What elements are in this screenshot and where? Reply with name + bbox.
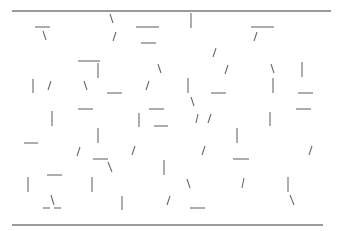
- line-segment: [158, 64, 161, 73]
- line-segment: [113, 32, 116, 41]
- line-segment: [290, 195, 294, 205]
- line-segment: [271, 64, 274, 73]
- line-segment: [146, 81, 149, 90]
- line-segment: [108, 162, 112, 172]
- line-segment: [132, 146, 135, 155]
- line-segment: [208, 114, 211, 123]
- line-segment: [77, 147, 80, 156]
- line-segment: [202, 146, 205, 155]
- line-segment: [43, 31, 46, 40]
- line-segment: [196, 114, 198, 123]
- stroke-segments: [24, 13, 313, 210]
- line-segment: [309, 146, 312, 155]
- line-segment: [191, 97, 194, 106]
- line-segment: [254, 32, 257, 41]
- line-segment: [167, 196, 170, 205]
- line-segment: [51, 195, 54, 205]
- line-segment: [187, 179, 190, 188]
- line-segment: [242, 178, 244, 188]
- line-segment: [84, 81, 87, 90]
- line-segment: [110, 14, 113, 23]
- horizontal-rules: [12, 11, 331, 225]
- line-segment: [48, 81, 51, 90]
- diagram-canvas: [0, 0, 343, 231]
- line-segment: [213, 48, 216, 57]
- line-segment-diagram: [0, 0, 343, 231]
- line-segment: [225, 65, 228, 74]
